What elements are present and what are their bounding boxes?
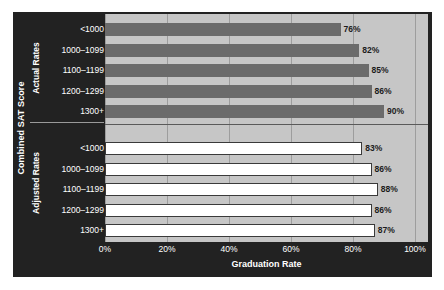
category-label: 1300+	[44, 106, 104, 116]
category-label: 1200–1299	[44, 86, 104, 96]
bar-row: 86%	[105, 163, 428, 176]
y-axis-title-text: Combined SAT Score	[16, 81, 26, 174]
group-label-actual-rates-text: Actual Rates	[31, 42, 41, 94]
category-label: 1100–1199	[44, 184, 104, 194]
bar-actual-2	[105, 64, 369, 77]
bar-actual-1	[105, 44, 359, 57]
plot-area: 76%82%85%86%90%83%86%88%86%87%	[105, 14, 428, 242]
bar-value-label: 86%	[372, 85, 392, 98]
x-tick-label: 80%	[344, 244, 361, 254]
bar-value-label: 90%	[384, 105, 404, 118]
x-tick-label: 60%	[282, 244, 299, 254]
bar-row: 85%	[105, 64, 428, 77]
category-label: 1000–1099	[44, 45, 104, 55]
bar-value-label: 83%	[362, 142, 382, 155]
bar-actual-3	[105, 85, 372, 98]
bar-value-label: 87%	[375, 224, 395, 237]
bar-row: 86%	[105, 204, 428, 217]
bar-value-label: 82%	[359, 44, 379, 57]
x-tick-label: 40%	[220, 244, 237, 254]
bar-adjusted-1	[105, 163, 372, 176]
bar-row: 87%	[105, 224, 428, 237]
bar-value-label: 86%	[372, 204, 392, 217]
category-label: 1300+	[44, 225, 104, 235]
category-label: 1000–1099	[44, 164, 104, 174]
group-divider-line	[105, 124, 428, 125]
bar-value-label: 86%	[372, 163, 392, 176]
group-label-adjusted-rates: Adjusted Rates	[28, 124, 44, 242]
y-axis-title: Combined SAT Score	[13, 12, 29, 244]
bar-value-label: 76%	[341, 23, 361, 36]
category-label: 1100–1199	[44, 65, 104, 75]
x-tick-label: 0%	[99, 244, 111, 254]
bar-actual-4	[105, 105, 384, 118]
bar-actual-0	[105, 23, 341, 36]
bar-row: 82%	[105, 44, 428, 57]
x-axis-ticks: 0%20%40%60%80%100%	[105, 244, 428, 258]
bar-row: 86%	[105, 85, 428, 98]
category-label: 1200–1299	[44, 205, 104, 215]
group-label-adjusted-rates-text: Adjusted Rates	[31, 152, 41, 214]
bar-value-label: 85%	[369, 64, 389, 77]
bar-adjusted-3	[105, 204, 372, 217]
bar-value-label: 88%	[378, 183, 398, 196]
bar-row: 88%	[105, 183, 428, 196]
group-divider	[30, 122, 104, 123]
bar-adjusted-4	[105, 224, 375, 237]
bar-adjusted-2	[105, 183, 378, 196]
group-label-actual-rates: Actual Rates	[28, 14, 44, 122]
bar-row: 83%	[105, 142, 428, 155]
x-axis-title: Graduation Rate	[105, 259, 428, 269]
category-label: <1000	[44, 24, 104, 34]
bar-row: 76%	[105, 23, 428, 36]
x-tick-label: 20%	[158, 244, 175, 254]
bar-row: 90%	[105, 105, 428, 118]
category-label: <1000	[44, 143, 104, 153]
x-tick-label: 100%	[404, 244, 426, 254]
bar-adjusted-0	[105, 142, 362, 155]
chart-panel: Combined SAT Score Actual Rates Adjusted…	[13, 12, 432, 277]
